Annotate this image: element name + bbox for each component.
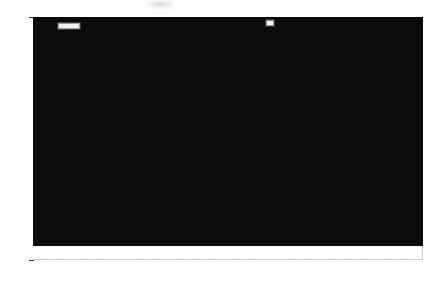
page-title: [58, 23, 80, 29]
figure-right-rule: [422, 246, 423, 260]
y-axis-bottom-cap: [29, 260, 34, 261]
chart-figure: [0, 0, 435, 282]
chart-legend: [266, 20, 274, 26]
page-background: [0, 0, 435, 14]
plot-area: [33, 17, 423, 246]
below-zero-region: [33, 246, 423, 260]
stacked-area-chart: [33, 17, 423, 246]
figure-bottom-rule: [33, 259, 423, 260]
scan-artifact: [148, 0, 174, 9]
below-zero-grid: [33, 246, 423, 260]
